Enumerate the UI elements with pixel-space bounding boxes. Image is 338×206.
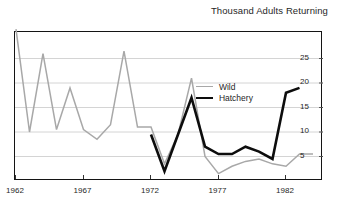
y-axis-tick-label: 15 — [300, 102, 309, 111]
x-axis-tick-label: 1982 — [276, 186, 294, 195]
legend-swatch-wild-icon — [196, 86, 213, 87]
y-axis-tick-label: 25 — [300, 53, 309, 62]
chart-legend: WildHatchery — [196, 81, 253, 103]
plot-area — [14, 31, 322, 180]
legend-item-hatchery[interactable]: Hatchery — [196, 92, 253, 103]
x-axis-tick-label: 1962 — [6, 186, 24, 195]
x-axis-tick-label: 1967 — [74, 186, 92, 195]
legend-swatch-hatchery-icon — [196, 97, 213, 99]
x-tick-mark — [150, 175, 151, 179]
x-tick-mark — [218, 175, 219, 179]
x-axis-tick-label: 1977 — [209, 186, 227, 195]
x-tick-mark — [285, 175, 286, 179]
series-line-wild — [16, 29, 313, 174]
x-tick-mark — [15, 175, 16, 179]
chart-canvas — [15, 32, 323, 181]
y-axis-tick-label: 20 — [300, 77, 309, 86]
series-lines — [16, 29, 313, 174]
legend-label: Hatchery — [219, 93, 253, 103]
x-tick-mark — [83, 175, 84, 179]
x-axis-tick-label: 1972 — [141, 186, 159, 195]
legend-item-wild[interactable]: Wild — [196, 81, 253, 92]
y-tick-marks — [319, 59, 323, 157]
y-axis-tick-label: 10 — [300, 126, 309, 135]
legend-label: Wild — [219, 82, 236, 92]
y-axis-tick-label: 5 — [300, 151, 304, 160]
chart-title: Thousand Adults Returning — [211, 5, 328, 16]
chart-container: Thousand Adults Returning 510152025 1962… — [0, 0, 338, 206]
